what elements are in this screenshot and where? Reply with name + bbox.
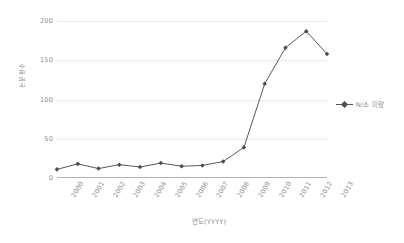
data-point-marker (138, 165, 143, 170)
y-axis-ticks: 050100150200 (0, 21, 53, 178)
x-axis-tick-label: 2001 (90, 180, 106, 199)
x-axis-tick-label: 2002 (111, 180, 127, 199)
x-axis-title: 연도(YYYY) (0, 216, 404, 226)
y-axis-tick-label: 100 (7, 96, 53, 104)
y-axis-tick-label: 0 (7, 174, 53, 182)
legend-label: N/소 미량 (356, 99, 384, 109)
series-line-group (57, 21, 327, 178)
data-point-marker (117, 162, 122, 167)
data-point-marker (179, 164, 184, 169)
legend-line-marker-icon (336, 100, 353, 108)
data-point-marker (55, 167, 60, 172)
x-axis-tick-label: 2007 (215, 180, 231, 199)
data-point-marker (96, 166, 101, 171)
x-axis-tick-label: 2005 (174, 180, 190, 199)
data-point-marker (200, 163, 205, 168)
y-axis-tick-label: 50 (7, 135, 53, 143)
x-axis-tick-label: 2006 (194, 180, 210, 199)
x-axis-tick-label: 2013 (340, 180, 356, 199)
data-point-marker (76, 162, 81, 167)
line-chart: 논문편수 050100150200 2000200120022003200420… (0, 0, 404, 243)
y-axis-tick-label: 150 (7, 56, 53, 64)
data-point-marker (159, 161, 164, 166)
plot-area (57, 21, 327, 178)
x-axis-tick-label: 2011 (298, 180, 314, 199)
series-line (57, 31, 327, 169)
legend: N/소 미량 (336, 99, 384, 109)
x-axis-tick-label: 2004 (153, 180, 169, 199)
x-axis-tick-label: 2008 (236, 180, 252, 199)
x-axis-tick-label: 2010 (277, 180, 293, 199)
x-axis-tick-label: 2003 (132, 180, 148, 199)
y-axis-tick-label: 200 (7, 17, 53, 25)
x-axis-tick-label: 2009 (257, 180, 273, 199)
x-axis-ticks: 2000200120022003200420052006200720082009… (57, 180, 327, 214)
x-axis-tick-label: 2012 (319, 180, 335, 199)
x-axis-tick-label: 2000 (70, 180, 86, 199)
data-point-marker (262, 82, 267, 87)
